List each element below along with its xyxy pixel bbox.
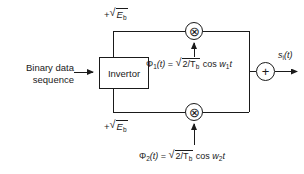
input-caption-line2: sequence	[33, 74, 74, 85]
diagram-wires	[0, 0, 304, 174]
carrier2-radicand-sub: b	[189, 155, 193, 162]
carrier1-time: t	[229, 59, 232, 69]
multiply-icon: ⊗	[186, 104, 202, 120]
multiplier-bottom: ⊗	[185, 103, 203, 121]
carrier2-radicand: 2/T	[176, 151, 189, 161]
carrier2-arg: (t)	[150, 151, 159, 161]
carrier2-equals: =	[161, 151, 166, 161]
sqrt-icon: √Eb	[110, 120, 128, 135]
radical-glyph: √	[110, 119, 116, 130]
multiply-icon: ⊗	[186, 23, 202, 39]
gain-label-bottom: +√Eb	[104, 120, 128, 135]
sqrt-icon: √2/Tb	[176, 58, 201, 72]
plus-icon: +	[257, 63, 274, 80]
invertor-label: Invertor	[108, 68, 140, 79]
bfsk-modulator-diagram: Binary data sequence Invertor +√Eb +√Eb …	[0, 0, 304, 174]
output-arg: (t)	[284, 50, 293, 60]
sqrt-icon: √2/Tb	[169, 150, 194, 164]
carrier1-radicand-sub: b	[196, 63, 200, 70]
input-caption-line1: Binary data	[26, 62, 74, 73]
output-label: si(t)	[278, 50, 292, 63]
radical-glyph: √	[110, 7, 116, 18]
gain-label-top: +√Eb	[104, 8, 128, 23]
radical-glyph: √	[169, 149, 175, 160]
invertor-block: Invertor	[99, 57, 149, 89]
summer-block: +	[256, 62, 275, 81]
carrier1-trig: cos	[203, 59, 217, 69]
multiplier-top: ⊗	[185, 22, 203, 40]
carrier1-arg: (t)	[157, 59, 166, 69]
carrier1-radicand: 2/T	[183, 59, 196, 69]
carrier1-equation: Φ1(t) = √2/Tb cos w1t	[146, 58, 232, 72]
carrier1-equals: =	[168, 59, 173, 69]
radical-glyph: √	[176, 57, 182, 68]
sqrt-icon: √Eb	[110, 8, 128, 23]
carrier2-time: t	[222, 151, 225, 161]
gain-top-subscript: b	[123, 14, 127, 21]
carrier2-equation: Φ2(t) = √2/Tb cos w2t	[139, 150, 225, 164]
gain-bottom-subscript: b	[123, 126, 127, 133]
carrier2-trig: cos	[196, 151, 210, 161]
input-caption: Binary data sequence	[2, 62, 74, 86]
